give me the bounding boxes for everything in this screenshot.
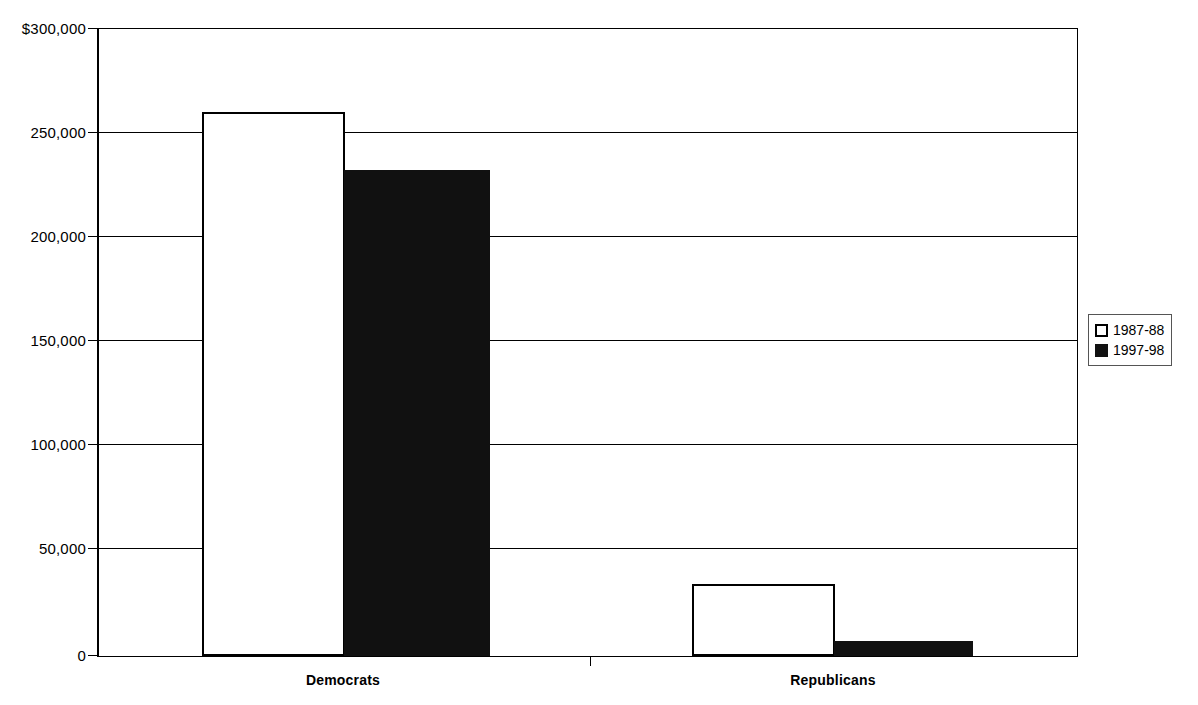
y-axis-label-250000: 250,000 [30,125,86,140]
x-axis-label-republicans: Republicans [790,672,875,688]
legend: 1987-88 1997-98 [1088,314,1172,366]
y-axis-label-0: 0 [77,648,86,663]
bar-democrats-1997-98[interactable] [344,170,490,656]
y-axis-label-300000: $300,000 [22,21,86,36]
bar-republicans-1997-98[interactable] [834,641,973,656]
legend-label-1987-88: 1987-88 [1113,323,1164,337]
plot-area [97,28,1078,657]
y-axis-label-100000: 100,000 [30,437,86,452]
y-axis-label-200000: 200,000 [30,229,86,244]
legend-swatch-black-square-icon [1095,344,1108,357]
y-tick-250000 [88,132,97,133]
bar-republicans-1987-88[interactable] [692,584,835,656]
y-tick-300000 [88,28,97,29]
y-tick-100000 [88,444,97,445]
legend-label-1997-98: 1997-98 [1113,343,1164,357]
y-tick-200000 [88,236,97,237]
y-axis-label-150000: 150,000 [30,333,86,348]
y-tick-0 [88,655,97,656]
bar-chart: $300,000 250,000 200,000 150,000 100,000… [0,0,1198,705]
x-tick-category-divider [590,656,591,666]
y-tick-50000 [88,548,97,549]
x-axis-label-democrats: Democrats [306,672,380,688]
legend-swatch-white-square-icon [1095,324,1108,337]
y-tick-150000 [88,340,97,341]
y-axis-label-50000: 50,000 [39,541,86,556]
bar-democrats-1987-88[interactable] [202,112,345,656]
legend-item-1987-88[interactable]: 1987-88 [1095,320,1164,340]
legend-item-1997-98[interactable]: 1997-98 [1095,340,1164,360]
